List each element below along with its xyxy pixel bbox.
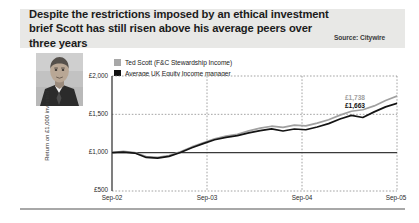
- chart-figure: Despite the restrictions imposed by an e…: [0, 0, 419, 223]
- chart-plot-area: Return on £1,000 invested £2,000 £1,500 …: [62, 74, 407, 202]
- bottom-divider: [20, 208, 405, 210]
- legend-swatch-ted-scott: [114, 59, 121, 66]
- end-label-ted-scott: £1,738: [345, 94, 365, 101]
- legend-item-ted-scott: Ted Scott (F&C Stewardship Income): [114, 57, 344, 67]
- source-credit: Source: Citywire: [334, 34, 385, 48]
- y-axis-title: Return on £1,000 invested: [44, 74, 54, 178]
- legend-label-ted-scott: Ted Scott (F&C Stewardship Income): [125, 59, 232, 66]
- headline-band: Despite the restrictions imposed by an e…: [20, 9, 405, 48]
- headline-title: Despite the restrictions imposed by an e…: [29, 7, 334, 50]
- end-label-average: £1,663: [345, 102, 365, 109]
